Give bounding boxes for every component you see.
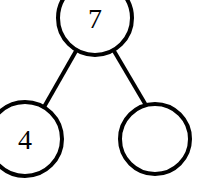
tree-edge-root-to-left xyxy=(44,51,76,107)
tree-edge-root-to-right xyxy=(114,51,147,107)
tree-canvas: 74 xyxy=(0,0,201,180)
binary-tree-diagram: 74 xyxy=(0,0,201,180)
node-circle-right-child xyxy=(120,104,190,174)
node-label-root: 7 xyxy=(88,3,102,34)
tree-node-left-child: 4 xyxy=(0,102,62,176)
node-label-left-child: 4 xyxy=(18,124,32,155)
tree-nodes-group: 74 xyxy=(0,0,190,176)
tree-edges-group xyxy=(44,51,147,107)
tree-node-right-child xyxy=(120,104,190,174)
tree-node-root: 7 xyxy=(58,0,132,55)
